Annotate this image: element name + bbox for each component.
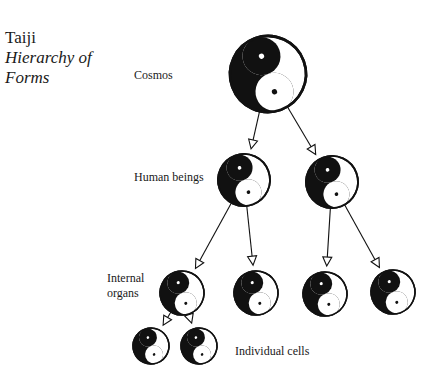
yin-yang-icon-organ-2 [228, 265, 284, 321]
hierarchy-diagram [0, 0, 429, 376]
yin-yang-icon-cell-2 [176, 323, 222, 369]
yin-yang-icon-cell-1 [128, 323, 174, 369]
yin-yang-nodes [128, 25, 421, 369]
arrow-human-left-to-organ-1 [195, 193, 237, 269]
yin-yang-icon-human-right [299, 149, 366, 216]
yin-yang-icon-human-left [211, 147, 278, 214]
yin-yang-icon-organ-3 [297, 266, 353, 322]
yin-yang-icon-organ-1 [154, 265, 210, 321]
yin-yang-icon-organ-4 [365, 264, 421, 320]
yin-yang-icon-cosmos [219, 25, 316, 122]
